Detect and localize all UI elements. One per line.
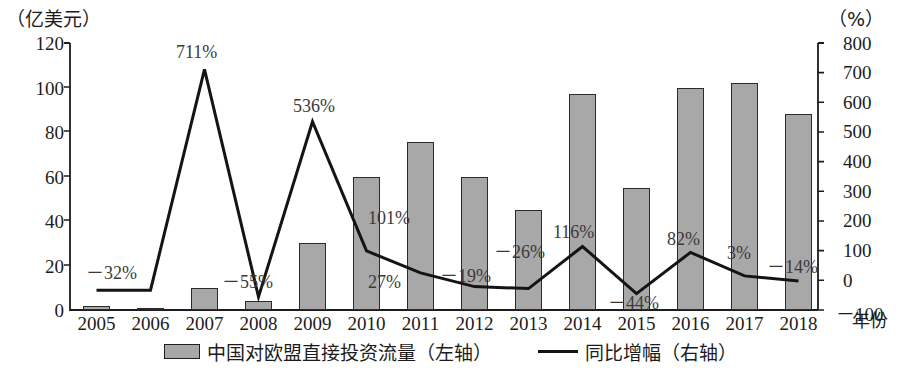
x-axis-title: 年份 [852, 312, 892, 331]
label-2005: －32% [86, 258, 137, 284]
label-2007: 711% [176, 42, 217, 63]
legend-item-bar: 中国对欧盟直接投资流量（左轴） [164, 338, 492, 365]
label-2018: －14% [767, 252, 818, 278]
legend-line-label: 同比增幅（右轴） [585, 338, 737, 365]
chart-container: （亿美元） （%） 120 100 80 60 40 20 0 800 700 … [0, 0, 900, 370]
label-2016: 82% [667, 229, 700, 250]
label-2014: 116% [553, 222, 594, 243]
legend-line-swatch-icon [538, 350, 578, 353]
label-2008: －55% [222, 267, 273, 293]
legend-bar-swatch-icon [164, 344, 200, 359]
chart-legend: 中国对欧盟直接投资流量（左轴） 同比增幅（右轴） [0, 336, 900, 366]
label-2009: 536% [293, 96, 335, 117]
label-2015: －44% [608, 288, 659, 314]
label-2017: 3% [727, 243, 751, 264]
legend-item-line: 同比增幅（右轴） [538, 338, 737, 365]
label-2013: －26% [494, 237, 545, 263]
xtick-2018: 2018 [766, 313, 831, 335]
label-2011: 27% [368, 272, 401, 293]
label-2010: 101% [368, 208, 410, 229]
legend-bar-label: 中国对欧盟直接投资流量（左轴） [207, 338, 492, 365]
label-2012: －19% [440, 261, 491, 287]
